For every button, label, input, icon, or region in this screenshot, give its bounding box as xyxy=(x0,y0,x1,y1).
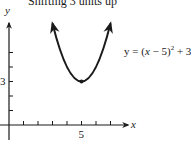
vertex-point xyxy=(80,80,84,84)
x-tick-label-5: 5 xyxy=(79,128,85,140)
parabola-curve xyxy=(53,24,111,82)
equation-prefix: y = ( xyxy=(124,45,145,57)
y-tick-label-3: 3 xyxy=(0,75,6,87)
x-axis-label: x xyxy=(130,118,136,130)
equation-mid: − 5) xyxy=(150,45,171,57)
equation-label: y = (x − 5)2 + 3 xyxy=(124,44,191,57)
y-axis-label: y xyxy=(4,4,10,16)
parabola-plot: y x 5 3 xyxy=(0,0,191,143)
equation-suffix: + 3 xyxy=(174,45,191,57)
